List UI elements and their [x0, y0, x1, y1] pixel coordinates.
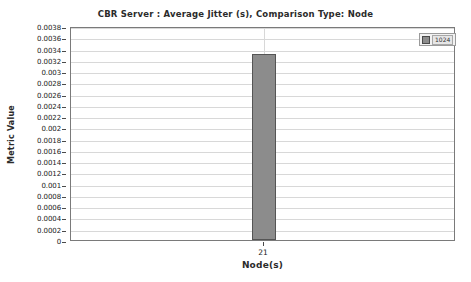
y-tick-mark	[62, 51, 66, 52]
legend-swatch-icon	[422, 36, 430, 44]
y-tick-mark	[62, 39, 66, 40]
y-tick-mark	[62, 129, 66, 130]
x-axis-tick-labels: 21	[70, 242, 455, 258]
y-tick-label: 0.0012	[37, 171, 61, 178]
plot-area	[70, 27, 455, 241]
y-tick-label: 0.0018	[37, 137, 61, 144]
x-tick-label: 21	[258, 248, 268, 257]
y-tick-mark	[62, 231, 66, 232]
y-tick-mark	[62, 73, 66, 74]
y-tick-mark	[62, 107, 66, 108]
y-tick-label: 0	[57, 239, 61, 246]
y-tick-mark	[62, 28, 66, 29]
y-tick-label: 0.0026	[37, 92, 61, 99]
y-tick-mark	[62, 141, 66, 142]
y-tick-mark	[62, 242, 66, 243]
chart-container: CBR Server : Average Jitter (s), Compari…	[0, 0, 471, 282]
y-tick-mark	[62, 163, 66, 164]
y-tick-label: 0.002	[41, 126, 61, 133]
y-tick-mark	[62, 96, 66, 97]
bars-layer	[71, 28, 454, 240]
y-tick-mark	[62, 186, 66, 187]
y-tick-label: 0.0028	[37, 81, 61, 88]
y-axis-tick-labels: 0.00380.00360.00340.00320.0030.00280.002…	[0, 27, 66, 241]
legend[interactable]: 1024	[419, 33, 456, 46]
x-tick-mark	[263, 242, 264, 246]
bar[interactable]	[252, 54, 276, 240]
y-tick-label: 0.0036	[37, 36, 61, 43]
y-tick-label: 0.0008	[37, 193, 61, 200]
y-tick-label: 0.0016	[37, 148, 61, 155]
y-tick-mark	[62, 174, 66, 175]
y-tick-label: 0.0024	[37, 103, 61, 110]
y-tick-label: 0.0032	[37, 58, 61, 65]
y-tick-label: 0.0022	[37, 115, 61, 122]
y-tick-mark	[62, 62, 66, 63]
y-tick-label: 0.003	[41, 70, 61, 77]
legend-entry[interactable]: 1024	[422, 35, 453, 45]
y-tick-mark	[62, 84, 66, 85]
x-axis-title: Node(s)	[70, 260, 455, 270]
y-tick-mark	[62, 152, 66, 153]
y-tick-label: 0.0004	[37, 216, 61, 223]
y-tick-label: 0.0002	[37, 227, 61, 234]
y-tick-mark	[62, 197, 66, 198]
y-tick-mark	[62, 208, 66, 209]
legend-label: 1024	[432, 35, 453, 45]
y-tick-mark	[62, 219, 66, 220]
y-tick-label: 0.001	[41, 182, 61, 189]
y-tick-label: 0.0034	[37, 47, 61, 54]
y-tick-label: 0.0038	[37, 25, 61, 32]
y-tick-label: 0.0006	[37, 205, 61, 212]
y-tick-mark	[62, 118, 66, 119]
y-tick-label: 0.0014	[37, 160, 61, 167]
chart-title: CBR Server : Average Jitter (s), Compari…	[0, 9, 471, 19]
